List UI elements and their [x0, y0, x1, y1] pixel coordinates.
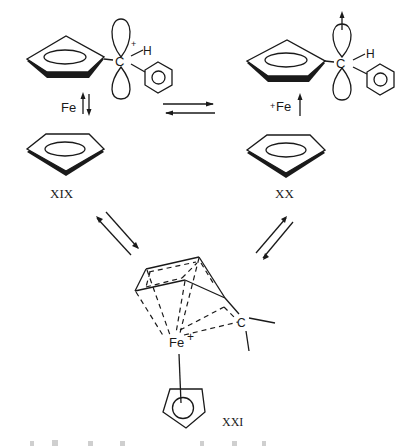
equilibrium-arrows-horizontal-icon: [163, 102, 215, 116]
structure-xix: C + H Fe XIX: [27, 19, 172, 201]
iron-label: Fe: [276, 99, 291, 114]
structure-xx: C H + Fe XX: [247, 11, 394, 201]
cyclopentadienyl-ring-bottom-icon: [27, 134, 104, 176]
hydrogen-label: H: [143, 44, 152, 58]
cyclopentadienyl-ring-top-icon: [247, 40, 325, 82]
compound-label-xix: XIX: [50, 186, 74, 201]
cyclopentadienyl-ring-icon: [163, 389, 205, 428]
truncated-caption-traces: [30, 440, 266, 446]
compound-label-xx: XX: [275, 186, 294, 201]
phenyl-ring-icon: [145, 62, 172, 93]
iron-charge: +: [187, 330, 194, 344]
structure-xxi: C Fe + XXI: [135, 257, 275, 429]
cyclopentadienyl-ring-bottom-icon: [247, 135, 325, 178]
carbon-label: C: [237, 316, 246, 330]
reaction-scheme: C + H Fe XIX: [0, 0, 416, 446]
iron-charge: +: [270, 101, 275, 111]
iron-label: Fe: [169, 335, 184, 350]
carbon-label: C: [115, 54, 124, 69]
hydrogen-label: H: [366, 47, 375, 61]
phenyl-ring-icon: [367, 64, 394, 95]
cyclopentadienyl-ring-top-icon: [27, 36, 104, 78]
equilibrium-arrows-left-diagonal-icon: [96, 212, 139, 255]
compound-label-xxi: XXI: [222, 415, 243, 429]
up-arrow-icon: [298, 93, 303, 116]
carbon-label: C: [336, 56, 345, 71]
up-down-arrows-icon: [81, 92, 92, 116]
equilibrium-arrows-right-diagonal-icon: [256, 216, 293, 260]
iron-label: Fe: [61, 100, 76, 115]
carbocation-charge: +: [131, 39, 136, 49]
